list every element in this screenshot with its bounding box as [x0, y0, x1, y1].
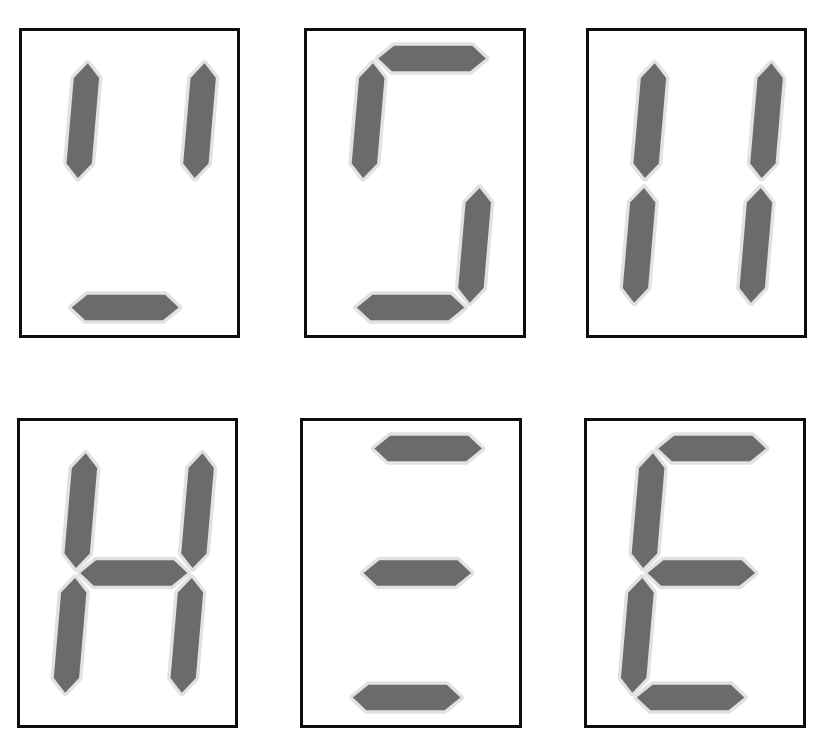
segment-a-top: [378, 46, 486, 71]
segment-panel-5: [300, 418, 522, 728]
segment-panel-6: [584, 418, 806, 728]
segment-d-bottom: [637, 685, 745, 710]
segment-panel-1: [19, 28, 240, 338]
segment-g-middle: [80, 560, 187, 585]
segment-a-top: [658, 436, 766, 461]
segment-display-5: [303, 421, 519, 725]
segment-panel-3: [586, 28, 807, 338]
segment-display-2: [307, 31, 523, 335]
segment-a-top: [374, 436, 482, 461]
segment-display-4: [20, 421, 235, 725]
segment-display-6: [587, 421, 803, 725]
segment-g-middle: [648, 560, 756, 585]
segment-d-bottom: [72, 295, 179, 320]
segment-d-bottom: [357, 295, 465, 320]
segment-display-1: [22, 31, 237, 335]
segment-d-bottom: [353, 685, 461, 710]
segment-panel-4: [17, 418, 238, 728]
segment-display-3: [589, 31, 804, 335]
segment-panel-2: [304, 28, 526, 338]
seven-segment-figure-sheet: [0, 0, 833, 750]
segment-g-middle: [364, 560, 472, 585]
